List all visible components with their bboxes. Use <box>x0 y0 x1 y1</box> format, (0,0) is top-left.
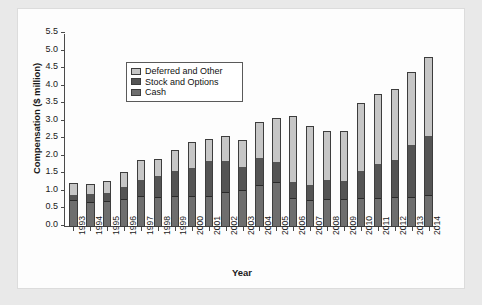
bar-group[interactable] <box>407 34 415 227</box>
bar-group[interactable] <box>103 34 111 227</box>
bar-segment-deferred[interactable] <box>87 185 93 194</box>
bar-segment-deferred[interactable] <box>104 182 110 192</box>
bar-stack[interactable] <box>154 159 162 227</box>
bar-segment-cash[interactable] <box>273 183 279 226</box>
bar-segment-deferred[interactable] <box>341 132 347 181</box>
bar-segment-deferred[interactable] <box>290 117 296 182</box>
bar-group[interactable] <box>424 34 432 227</box>
bar-stack[interactable] <box>221 136 229 227</box>
bar-segment-stock[interactable] <box>155 176 161 198</box>
bar-segment-stock[interactable] <box>273 162 279 183</box>
bar-stack[interactable] <box>357 103 365 227</box>
bar-group[interactable] <box>357 34 365 227</box>
bar-segment-cash[interactable] <box>155 198 161 226</box>
bar-segment-cash[interactable] <box>87 203 93 226</box>
bar-stack[interactable] <box>289 116 297 227</box>
bar-segment-stock[interactable] <box>408 145 414 198</box>
bar-group[interactable] <box>340 34 348 227</box>
x-axis-tick-label: 2006 <box>297 216 307 235</box>
bar-stack[interactable] <box>340 131 348 228</box>
bar-segment-stock[interactable] <box>290 182 296 200</box>
bar-stack[interactable] <box>205 139 213 227</box>
x-axis-tick-label: 1997 <box>145 216 155 235</box>
bar-stack[interactable] <box>306 126 314 227</box>
bar-segment-cash[interactable] <box>341 200 347 226</box>
bar-segment-deferred[interactable] <box>206 140 212 161</box>
bar-segment-cash[interactable] <box>138 197 144 226</box>
x-axis-tick-mark <box>90 227 91 231</box>
bar-segment-cash[interactable] <box>121 200 127 226</box>
bar-segment-deferred[interactable] <box>408 73 414 145</box>
bar-segment-cash[interactable] <box>290 199 296 226</box>
bar-group[interactable] <box>255 34 263 227</box>
bar-segment-stock[interactable] <box>138 180 144 197</box>
bar-group[interactable] <box>289 34 297 227</box>
bar-segment-deferred[interactable] <box>273 119 279 161</box>
bar-segment-deferred[interactable] <box>358 104 364 170</box>
bar-segment-stock[interactable] <box>256 158 262 186</box>
bar-stack[interactable] <box>323 131 331 228</box>
bar-segment-deferred[interactable] <box>307 127 313 185</box>
bar-segment-stock[interactable] <box>307 185 313 201</box>
bar-segment-deferred[interactable] <box>155 160 161 176</box>
bar-segment-stock[interactable] <box>375 164 381 199</box>
bar-segment-deferred[interactable] <box>375 95 381 164</box>
bar-segment-deferred[interactable] <box>222 137 228 161</box>
x-axis-tick-label: 1993 <box>77 216 87 235</box>
bar-segment-stock[interactable] <box>324 180 330 200</box>
bar-segment-stock[interactable] <box>425 136 431 196</box>
bar-segment-stock[interactable] <box>104 193 110 202</box>
bar-segment-cash[interactable] <box>70 201 76 226</box>
bar-segment-cash[interactable] <box>239 191 245 226</box>
legend-item-stock[interactable]: Stock and Options <box>131 77 237 88</box>
bar-segment-stock[interactable] <box>392 160 398 198</box>
bar-stack[interactable] <box>255 122 263 227</box>
bar-segment-deferred[interactable] <box>189 143 195 168</box>
bar-segment-deferred[interactable] <box>138 161 144 180</box>
bar-segment-deferred[interactable] <box>239 141 245 166</box>
bar-segment-stock[interactable] <box>239 167 245 192</box>
bar-stack[interactable] <box>407 72 415 227</box>
bar-group[interactable] <box>306 34 314 227</box>
bar-segment-cash[interactable] <box>392 198 398 226</box>
bar-segment-deferred[interactable] <box>425 58 431 136</box>
bar-stack[interactable] <box>391 89 399 227</box>
x-axis-tick-mark <box>395 227 396 231</box>
legend-item-cash[interactable]: Cash <box>131 87 237 98</box>
bar-segment-deferred[interactable] <box>256 123 262 158</box>
bar-group[interactable] <box>86 34 94 227</box>
bar-segment-cash[interactable] <box>206 197 212 226</box>
bar-segment-stock[interactable] <box>87 194 93 203</box>
bar-segment-cash[interactable] <box>307 201 313 226</box>
bar-group[interactable] <box>374 34 382 227</box>
bar-segment-stock[interactable] <box>206 161 212 197</box>
bar-segment-deferred[interactable] <box>70 184 76 195</box>
bar-segment-deferred[interactable] <box>172 151 178 171</box>
bar-segment-stock[interactable] <box>358 171 364 199</box>
bar-stack[interactable] <box>424 57 432 227</box>
y-axis-tick: 0.0 <box>21 225 65 226</box>
bar-segment-stock[interactable] <box>341 181 347 200</box>
bar-segment-deferred[interactable] <box>121 173 127 187</box>
bar-stack[interactable] <box>238 140 246 227</box>
bar-segment-cash[interactable] <box>256 186 262 226</box>
bar-segment-deferred[interactable] <box>324 132 330 180</box>
bar-group[interactable] <box>391 34 399 227</box>
bar-segment-cash[interactable] <box>104 202 110 226</box>
bar-segment-cash[interactable] <box>408 198 414 226</box>
bar-segment-stock[interactable] <box>172 171 178 197</box>
bar-segment-cash[interactable] <box>425 196 431 226</box>
bar-stack[interactable] <box>188 142 196 227</box>
bar-segment-stock[interactable] <box>121 187 127 201</box>
bar-group[interactable] <box>323 34 331 227</box>
bar-segment-deferred[interactable] <box>392 90 398 160</box>
bar-group[interactable] <box>69 34 77 227</box>
bar-stack[interactable] <box>272 118 280 227</box>
bar-group[interactable] <box>272 34 280 227</box>
bar-segment-stock[interactable] <box>222 161 228 193</box>
bar-segment-cash[interactable] <box>324 200 330 226</box>
legend-item-deferred[interactable]: Deferred and Other <box>131 66 237 77</box>
bar-segment-cash[interactable] <box>222 193 228 226</box>
bar-stack[interactable] <box>374 94 382 227</box>
bar-segment-stock[interactable] <box>189 168 195 197</box>
